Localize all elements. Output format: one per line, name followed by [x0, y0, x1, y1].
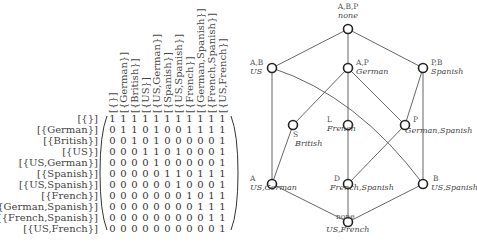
row-label: [{French,Spanish}]	[0, 212, 98, 223]
lattice-edge	[293, 68, 348, 125]
matrix-cell: 1	[217, 223, 228, 234]
node-name: German,Spanish	[405, 126, 472, 135]
matrix-cell: 1	[206, 113, 217, 124]
matrix-cell: 1	[173, 146, 184, 157]
node-name: Spanish	[431, 67, 463, 76]
node-name: British	[294, 139, 322, 148]
matrix-cell: 1	[195, 168, 206, 179]
matrix-cell: 0	[184, 157, 195, 168]
lattice-node-british: SBritish	[289, 121, 323, 149]
column-header: [{}]	[107, 0, 118, 113]
matrix-cell: 1	[217, 190, 228, 201]
matrix-cell: 0	[173, 157, 184, 168]
matrix-cell: 0	[151, 168, 162, 179]
matrix-cell: 1	[195, 113, 206, 124]
matrix-cell: 0	[118, 212, 129, 223]
matrix-cell: 1	[217, 168, 228, 179]
matrix-cell: 0	[184, 212, 195, 223]
column-header-label: [{US,German}]	[151, 34, 162, 113]
matrix-cell: 0	[195, 223, 206, 234]
matrix-cell: 0	[129, 190, 140, 201]
row-label: [{French}]	[41, 190, 98, 201]
column-header-label: [{US,Spanish}]	[173, 34, 184, 113]
column-header: [{Spanish}]	[162, 0, 173, 113]
column-header-label: [{French,Spanish}]	[206, 13, 217, 113]
left-parenthesis	[99, 114, 109, 232]
matrix-cell: 0	[118, 223, 129, 234]
matrix-cell: 0	[129, 223, 140, 234]
matrix-cell: 1	[217, 146, 228, 157]
row-label: [{}]	[77, 113, 98, 124]
lattice-edge	[348, 68, 405, 125]
matrix-cell: 0	[184, 179, 195, 190]
matrix-cell: 0	[195, 146, 206, 157]
matrix-cell: 0	[140, 179, 151, 190]
lattice-node-us-german: AUS,German	[249, 174, 297, 192]
node-label: D	[334, 174, 340, 183]
column-header: [{US,Spanish}]	[173, 0, 184, 113]
matrix-cell: 0	[162, 179, 173, 190]
matrix-cell: 1	[129, 113, 140, 124]
lattice-edge	[272, 29, 348, 68]
matrix-cell: 1	[195, 201, 206, 212]
matrix-cell: 1	[206, 201, 217, 212]
column-header: [{British}]	[129, 0, 140, 113]
node-label: A,P	[355, 58, 369, 67]
matrix-cell: 0	[206, 146, 217, 157]
matrix-cell: 0	[173, 223, 184, 234]
matrix-cell: 1	[173, 113, 184, 124]
matrix-cell: 0	[140, 168, 151, 179]
matrix-cell: 1	[206, 212, 217, 223]
matrix-cell: 0	[118, 157, 129, 168]
matrix-cell: 0	[162, 135, 173, 146]
lattice-edge	[348, 125, 405, 184]
node-label: S	[293, 130, 298, 139]
matrix-cell: 1	[140, 146, 151, 157]
matrix-cell: 0	[129, 201, 140, 212]
row-label: [{Spanish}]	[37, 168, 98, 179]
matrix-cell: 0	[195, 212, 206, 223]
matrix-cell: 1	[206, 124, 217, 135]
lattice-node-top: A,B,Pnone	[337, 2, 359, 34]
matrix-cell: 0	[195, 190, 206, 201]
matrix-cell: 0	[162, 190, 173, 201]
node-name: US	[250, 67, 263, 76]
lattice-node-spanish: P,BSpanish	[419, 58, 464, 76]
matrix-cell: 1	[217, 201, 228, 212]
node-circle	[289, 121, 298, 130]
column-header: [{French}]	[184, 0, 195, 113]
matrix-cell: 0	[173, 124, 184, 135]
column-header-label: [{US}]	[140, 77, 151, 113]
matrix-cell: 1	[129, 135, 140, 146]
row-label: [{British}]	[43, 135, 98, 146]
lattice-node-french: LFrench	[326, 115, 356, 133]
column-header: [{US}]	[140, 0, 151, 113]
matrix-cell: 0	[162, 157, 173, 168]
node-label: P,B	[431, 58, 443, 67]
matrix-cell: 0	[151, 212, 162, 223]
row-label: [{US}]	[62, 146, 98, 157]
node-name: US,French	[326, 225, 369, 234]
matrix-cell: 1	[217, 179, 228, 190]
matrix-cell: 1	[206, 190, 217, 201]
node-circle	[419, 180, 428, 189]
matrix-cell: 1	[151, 113, 162, 124]
matrix-cell: 0	[162, 201, 173, 212]
node-label: A,B,P	[337, 2, 359, 11]
matrix-cell: 1	[206, 168, 217, 179]
matrix-cell: 1	[195, 124, 206, 135]
matrix-cell: 1	[217, 157, 228, 168]
node-name: German	[356, 67, 388, 76]
matrix-cell: 1	[118, 124, 129, 135]
matrix-cell: 1	[151, 146, 162, 157]
incidence-matrix: [{}][{German}][{British}][{US}][{US,Germ…	[0, 0, 245, 247]
column-header-label: [{French}]	[184, 56, 195, 113]
column-header-label: [{British}]	[129, 58, 140, 113]
column-header: [{US,German}]	[151, 0, 162, 113]
matrix-cell: 0	[195, 179, 206, 190]
row-label: [{German}]	[37, 124, 98, 135]
matrix-cell: 0	[129, 212, 140, 223]
matrix-cell: 0	[162, 146, 173, 157]
matrix-cell: 0	[140, 124, 151, 135]
node-name: French	[326, 124, 356, 133]
